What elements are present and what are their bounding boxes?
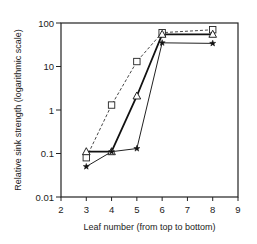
series-group [82,27,216,170]
x-axis-title: Leaf number (from top to bottom) [83,222,215,232]
x-tick-label: 2 [58,204,63,215]
axes: 234567890.010.1110100 [36,18,241,216]
x-tick-label: 7 [185,204,190,215]
series-line-stars [86,43,212,167]
x-tick-label: 4 [109,204,114,215]
x-tick-label: 8 [210,204,215,215]
series-stars [86,43,212,167]
y-axis-title: Relative sink strength (logarithmic scal… [13,29,23,191]
x-tick-label: 6 [159,204,164,215]
plot-frame [61,23,238,197]
markers-triangles [82,30,216,154]
series-line-triangles [86,34,212,151]
chart: 234567890.010.1110100 Leaf number (from … [0,0,257,244]
y-tick-label: 100 [38,18,54,29]
y-tick-label: 1 [49,105,54,116]
triangle-marker [133,92,141,99]
markers-stars [83,40,216,170]
square-marker [83,155,89,161]
x-tick-label: 9 [235,204,240,215]
series-triangles [86,34,212,151]
star-marker [210,40,216,46]
square-marker [108,102,114,108]
star-marker [83,163,89,169]
square-marker [134,58,140,64]
x-tick-label: 3 [84,204,89,215]
star-marker [134,145,140,151]
y-tick-label: 10 [43,61,54,72]
y-tick-label: 0.01 [36,192,55,203]
y-tick-label: 0.1 [41,148,54,159]
x-tick-label: 5 [134,204,139,215]
